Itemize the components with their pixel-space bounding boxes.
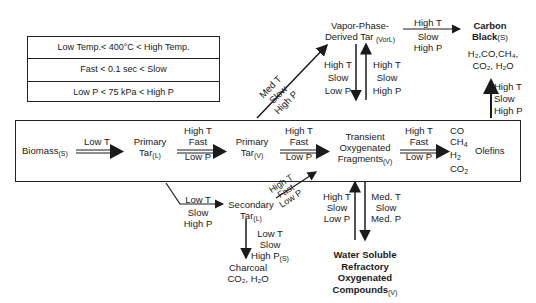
cond-transient-to-water: Med. T Slow Med. P bbox=[368, 191, 404, 224]
cond-vapor-tar-down: High T Slow Low P bbox=[322, 58, 354, 97]
cond-primary-v-to-transient: High T Fast Low P bbox=[281, 125, 317, 162]
node-olefins: Olefins bbox=[475, 145, 505, 156]
cond-low-t: Low T bbox=[84, 136, 110, 147]
cond-secondary-to-charcoal: Low T Slow High P(S) bbox=[250, 228, 290, 264]
cond-transient-to-gases: High T Fast Low P bbox=[401, 125, 437, 162]
node-primary-tar-vapor: Primary Tar(V) bbox=[232, 136, 272, 161]
cond-primary-to-secondary: Low T Slow High P bbox=[178, 194, 218, 229]
node-primary-tar-liquid: Primary Tar(L) bbox=[130, 136, 170, 161]
cond-vapor-tar-up: High T Slow High P bbox=[369, 58, 405, 97]
node-transient-fragments: Transient Oxygenated Fragments(V) bbox=[330, 131, 400, 167]
cond-gases-to-carbon: High T Slow High P bbox=[494, 81, 523, 117]
node-biomass: Biomass(S) bbox=[22, 145, 68, 159]
node-charcoal: Charcoal CO₂, H₂O bbox=[220, 262, 276, 284]
cond-primary-l-to-v: High T Fast Low P bbox=[180, 125, 216, 162]
node-carbon-black: Carbon Black(S) bbox=[466, 20, 514, 43]
carbon-black-products: H₂,CO,CH₄, CO₂, H₂O bbox=[458, 48, 528, 72]
cond-water-to-transient: High T Slow Low P bbox=[320, 191, 354, 224]
node-gases: CO CH4 H2 CO2 bbox=[450, 126, 468, 177]
cond-vapor-tar-to-carbon: High T Slow High P bbox=[408, 17, 448, 53]
node-vapor-phase-tar: Vapor-Phase- Derived Tar (VorL) bbox=[320, 20, 400, 45]
node-water-soluble-compounds: Water Soluble Refractory Oxygenated Comp… bbox=[326, 249, 404, 298]
